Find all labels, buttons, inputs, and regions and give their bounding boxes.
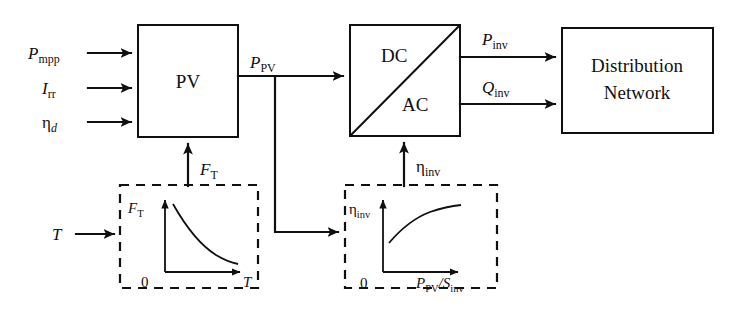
temperature-derating-curve-path — [173, 204, 238, 264]
arrow-p-pv-to-efficiency-curve — [275, 76, 338, 232]
pv-block: PV — [138, 25, 238, 137]
signal-p-pv: PPV — [238, 53, 343, 232]
label-p-pv: PPV — [249, 53, 276, 75]
label-eta-inv: ηinv — [416, 157, 440, 179]
label-f-t: FT — [199, 160, 218, 182]
p-pv-branch-node — [275, 76, 276, 77]
input-p-mpp: Pmpp — [27, 44, 131, 66]
label-q-inv: Qinv — [482, 78, 510, 100]
input-label-p-mpp: Pmpp — [27, 44, 60, 66]
signal-f-t: FT — [188, 144, 218, 186]
efficiency-chart-x-label: PPV/Sinv — [415, 275, 464, 294]
signal-p-inv: Pinv — [460, 30, 555, 57]
distribution-network-label-line2: Network — [604, 82, 671, 103]
label-p-inv: Pinv — [481, 30, 508, 52]
temperature-chart-y-label: FT — [127, 200, 144, 219]
input-eta-d: ηd — [42, 113, 131, 135]
inverter-label-ac: AC — [402, 94, 428, 115]
inverter-block: DC AC — [350, 25, 460, 136]
temperature-chart-origin: 0 — [141, 274, 149, 290]
efficiency-chart-origin: 0 — [360, 275, 368, 291]
distribution-network-label-line1: Distribution — [591, 55, 683, 76]
signal-q-inv: Qinv — [460, 78, 555, 104]
input-i-rr: Irr — [41, 79, 131, 101]
input-label-i-rr: Irr — [41, 79, 56, 101]
inverter-label-dc: DC — [381, 45, 407, 66]
label-temperature-input: T — [52, 225, 63, 244]
inverter-efficiency-curve-path — [389, 205, 461, 243]
efficiency-chart-y-label: ηinv — [349, 201, 371, 220]
signal-eta-inv: ηinv — [404, 143, 440, 186]
pv-system-block-diagram: Pmpp Irr ηd PV PPV DC AC — [0, 0, 740, 314]
pv-block-label: PV — [176, 71, 201, 92]
input-label-eta-d: ηd — [42, 113, 58, 135]
inverter-efficiency-subblock: ηinv PPV/Sinv 0 — [345, 185, 497, 294]
distribution-network-block: Distribution Network — [562, 28, 713, 133]
input-temperature: T — [52, 225, 114, 244]
temperature-derating-subblock: FT T 0 — [120, 185, 258, 290]
distribution-network-rect — [562, 28, 713, 133]
